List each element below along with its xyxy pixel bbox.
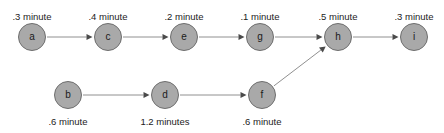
node-label-b: b	[65, 90, 71, 100]
node-d[interactable]: d	[151, 81, 179, 109]
activity-network-diagram: aceghibdf .3 minute.4 minute.2 minute.1 …	[0, 0, 444, 133]
arrowhead-icon	[239, 34, 245, 40]
edge-h-to-i	[353, 34, 399, 40]
duration-label-f: .6 minute	[242, 116, 281, 127]
node-a[interactable]: a	[18, 23, 46, 51]
edge-d-to-f	[180, 92, 247, 98]
edge-c-to-e	[123, 34, 169, 40]
arrowhead-icon	[163, 34, 169, 40]
node-label-h: h	[335, 32, 341, 42]
edge-a-to-c	[47, 34, 93, 40]
edge-g-to-h	[275, 34, 323, 40]
node-label-d: d	[162, 90, 168, 100]
arrowhead-icon	[317, 34, 323, 40]
duration-label-g: .1 minute	[240, 11, 279, 22]
node-label-f: f	[261, 90, 264, 100]
node-label-i: i	[413, 32, 415, 42]
node-label-g: g	[257, 32, 263, 42]
edge-f-to-h	[274, 46, 326, 86]
duration-label-h: .5 minute	[318, 11, 357, 22]
duration-label-d: 1.2 minutes	[140, 116, 189, 127]
node-h[interactable]: h	[324, 23, 352, 51]
node-b[interactable]: b	[54, 81, 82, 109]
duration-label-c: .4 minute	[88, 11, 127, 22]
node-label-e: e	[181, 32, 187, 42]
duration-label-b: .6 minute	[48, 116, 87, 127]
arrowhead-icon	[319, 46, 326, 52]
arrowhead-icon	[393, 34, 399, 40]
duration-label-a: .3 minute	[12, 11, 51, 22]
node-c[interactable]: c	[94, 23, 122, 51]
node-label-a: a	[29, 32, 35, 42]
arrowhead-icon	[241, 92, 247, 98]
edge-line	[274, 50, 321, 86]
duration-label-e: .2 minute	[164, 11, 203, 22]
node-label-c: c	[106, 32, 111, 42]
node-g[interactable]: g	[246, 23, 274, 51]
node-f[interactable]: f	[248, 81, 276, 109]
arrowhead-icon	[144, 92, 150, 98]
edge-layer	[0, 0, 444, 133]
arrowhead-icon	[87, 34, 93, 40]
node-i[interactable]: i	[400, 23, 428, 51]
edge-b-to-d	[83, 92, 150, 98]
edge-e-to-g	[199, 34, 245, 40]
duration-label-i: .3 minute	[394, 11, 433, 22]
node-e[interactable]: e	[170, 23, 198, 51]
